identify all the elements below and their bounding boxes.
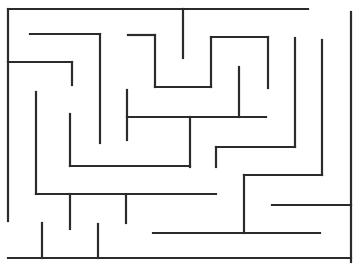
- maze-background: [0, 0, 353, 268]
- maze: [0, 0, 353, 268]
